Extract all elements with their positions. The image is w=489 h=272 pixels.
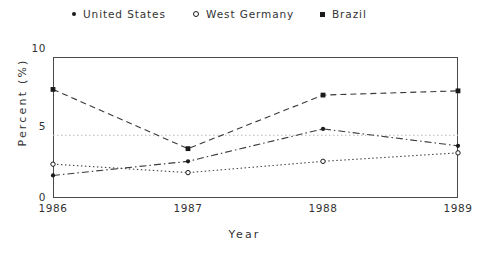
data-point-marker xyxy=(321,127,325,131)
x-tick-label-1987: 1987 xyxy=(161,202,215,214)
filled-square-icon xyxy=(320,12,325,17)
series-markers-brazil xyxy=(51,87,461,151)
data-point-marker xyxy=(321,159,325,163)
legend-label: West Germany xyxy=(206,7,294,21)
legend-item-brazil: Brazil xyxy=(320,7,367,21)
x-axis-title: Year xyxy=(0,228,489,241)
x-tick-label-1989: 1989 xyxy=(431,202,485,214)
chart-legend: United States West Germany Brazil xyxy=(0,4,489,26)
data-point-marker xyxy=(456,151,460,155)
data-point-marker xyxy=(51,173,55,177)
data-point-marker xyxy=(186,170,190,174)
x-tick-label-1988: 1988 xyxy=(296,202,350,214)
legend-item-west-germany: West Germany xyxy=(193,7,294,21)
series-line-brazil xyxy=(53,89,458,148)
data-point-marker xyxy=(456,88,461,93)
y-axis-title: Percent (%) xyxy=(16,48,29,158)
x-tick-label-1986: 1986 xyxy=(26,202,80,214)
legend-label: Brazil xyxy=(332,7,367,21)
filled-dot-icon xyxy=(72,12,76,16)
series-united-states xyxy=(51,127,460,178)
data-point-marker xyxy=(321,93,326,98)
series-line-west-germany xyxy=(53,153,458,173)
series-markers-united-states xyxy=(51,127,460,178)
data-point-marker xyxy=(456,144,460,148)
legend-label: United States xyxy=(83,7,166,21)
series-west-germany xyxy=(51,151,460,175)
open-circle-icon xyxy=(193,11,199,17)
data-point-marker xyxy=(51,87,56,92)
series-markers-west-germany xyxy=(51,151,460,175)
chart-plot xyxy=(53,57,458,198)
legend-item-united-states: United States xyxy=(72,7,166,21)
data-point-marker xyxy=(186,146,191,151)
data-point-marker xyxy=(186,159,190,163)
series-brazil xyxy=(51,87,461,151)
data-point-marker xyxy=(51,162,55,166)
